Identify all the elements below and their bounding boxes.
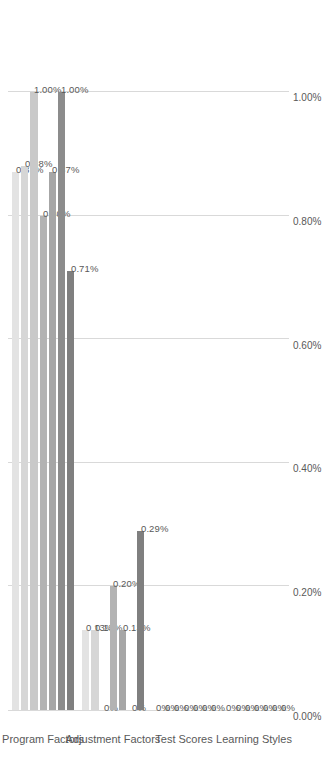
- bar[interactable]: [30, 92, 37, 710]
- plot-area: 0.87%0.88%1.00%0.80%0.87%1.00%0.71%0.13%…: [8, 92, 289, 711]
- axis-tick-label: 1.00%: [293, 92, 321, 103]
- bar-group: 0%0%0%0%0%0%0%: [149, 92, 219, 710]
- axis-tick-label: 0.60%: [293, 340, 321, 351]
- bar-row: 0%: [179, 92, 188, 710]
- bar-row: 0.88%: [20, 92, 29, 710]
- plot-inner: 0.87%0.88%1.00%0.80%0.87%1.00%0.71%0.13%…: [8, 92, 289, 711]
- bar-row: 1.00%: [57, 92, 66, 710]
- bar-group: 0%0%0%0%0%0%0%: [219, 92, 289, 710]
- category-label: Adjustment Factors: [78, 711, 148, 767]
- rotated-figure-wrapper: Program FactorsAdjustment FactorsTest Sc…: [0, 0, 335, 767]
- bar-row: 0%: [258, 92, 267, 710]
- bar-row: 0.20%: [109, 92, 118, 710]
- category-axis: Program FactorsAdjustment FactorsTest Sc…: [8, 711, 289, 767]
- bar[interactable]: [40, 216, 47, 710]
- category-label: Test Scores: [149, 711, 219, 767]
- bar[interactable]: [82, 630, 89, 710]
- bar-row: 0%: [222, 92, 231, 710]
- bar-row: 0.29%: [136, 92, 145, 710]
- bar-row: 0.87%: [48, 92, 57, 710]
- bar-group: 0.13%0.13%0%0.20%0.13%0%0.29%: [78, 92, 148, 710]
- bar[interactable]: [137, 531, 144, 710]
- axis-tick-label: 0.00%: [293, 711, 321, 722]
- bar-row: 0%: [170, 92, 179, 710]
- bar-row: 0%: [231, 92, 240, 710]
- bar-row: 0.80%: [39, 92, 48, 710]
- bar-row: 0%: [152, 92, 161, 710]
- bar-row: 0%: [100, 92, 109, 710]
- bar-row: 0%: [277, 92, 286, 710]
- bar-chart: Program FactorsAdjustment FactorsTest Sc…: [0, 0, 335, 767]
- category-label: Learning Styles: [219, 711, 289, 767]
- bar-row: 1.00%: [29, 92, 38, 710]
- bar[interactable]: [12, 172, 19, 710]
- bar[interactable]: [67, 271, 74, 710]
- bar[interactable]: [110, 586, 117, 710]
- bar-row: 0%: [249, 92, 258, 710]
- bar[interactable]: [21, 166, 28, 710]
- bar[interactable]: [91, 630, 98, 710]
- bar-row: 0.87%: [11, 92, 20, 710]
- chart-legend: All StudentsAll MalesNon-Minority MalesM…: [8, 2, 289, 90]
- bar-row: 0%: [161, 92, 170, 710]
- bar-row: 0%: [268, 92, 277, 710]
- bar-row: 0.71%: [66, 92, 75, 710]
- axis-tick-label: 0.20%: [293, 587, 321, 598]
- bar-row: 0%: [127, 92, 136, 710]
- bar-row: 0%: [207, 92, 216, 710]
- value-axis: 0.00%0.20%0.40%0.60%0.80%1.00%: [289, 92, 335, 711]
- bar-row: 0%: [240, 92, 249, 710]
- bar-row: 0.13%: [90, 92, 99, 710]
- bar-row: 0.13%: [118, 92, 127, 710]
- bar-groups: 0.87%0.88%1.00%0.80%0.87%1.00%0.71%0.13%…: [8, 92, 289, 710]
- bar-row: 0%: [197, 92, 206, 710]
- bar-row: 0.13%: [81, 92, 90, 710]
- bar[interactable]: [49, 172, 56, 710]
- axis-tick-label: 0.40%: [293, 463, 321, 474]
- bar[interactable]: [58, 92, 65, 710]
- axis-tick-label: 0.80%: [293, 216, 321, 227]
- bar[interactable]: [119, 630, 126, 710]
- bar-group: 0.87%0.88%1.00%0.80%0.87%1.00%0.71%: [8, 92, 78, 710]
- bar-row: 0%: [188, 92, 197, 710]
